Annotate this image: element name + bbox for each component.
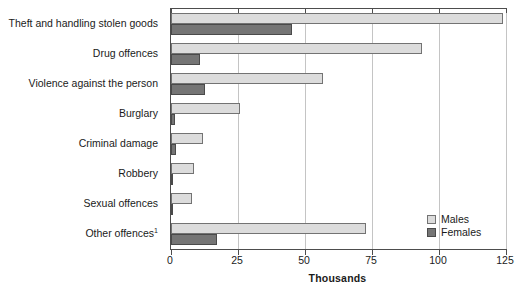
category-label: Sexual offences <box>83 198 158 209</box>
x-axis-tick-label: 25 <box>231 254 243 266</box>
x-axis-tick-top <box>506 8 507 13</box>
category-label: Burglary <box>119 108 158 119</box>
legend-label-females: Females <box>441 227 481 238</box>
bar-females <box>171 234 217 245</box>
bar-males <box>171 13 503 24</box>
bar-females <box>171 174 173 185</box>
legend-swatch-males-icon <box>427 215 436 224</box>
bar-males <box>171 133 203 144</box>
category-label: Violence against the person <box>29 78 158 89</box>
chart-legend: Males Females <box>427 213 501 239</box>
x-axis-tick-labels: 0255075100125 <box>170 254 505 268</box>
bar-females <box>171 114 175 125</box>
category-label: Drug offences <box>93 48 158 59</box>
x-axis-tick-label: 75 <box>365 254 377 266</box>
category-label: Criminal damage <box>79 138 158 149</box>
category-label: Theft and handling stolen goods <box>9 18 158 29</box>
category-label: Other offences1 <box>85 228 158 239</box>
gridline <box>506 9 507 249</box>
category-label-column: Theft and handling stolen goodsDrug offe… <box>0 8 164 248</box>
bar-males <box>171 73 323 84</box>
bar-males <box>171 193 192 204</box>
x-axis-tick-label: 0 <box>167 254 173 266</box>
bar-females <box>171 204 173 215</box>
legend-item-females: Females <box>427 226 501 238</box>
x-axis-title: Thousands <box>170 272 505 284</box>
legend-item-males: Males <box>427 213 501 225</box>
bar-females <box>171 144 176 155</box>
x-axis-tick-label: 100 <box>429 254 447 266</box>
bar-females <box>171 84 205 95</box>
bar-males <box>171 163 194 174</box>
bar-males <box>171 223 366 234</box>
x-axis-tick-label: 125 <box>496 254 514 266</box>
category-label: Robbery <box>118 168 158 179</box>
bar-chart: Theft and handling stolen goodsDrug offe… <box>0 0 528 302</box>
x-axis-tick-label: 50 <box>298 254 310 266</box>
bar-females <box>171 54 200 65</box>
bar-males <box>171 43 422 54</box>
bar-females <box>171 24 292 35</box>
legend-label-males: Males <box>441 214 469 225</box>
legend-swatch-females-icon <box>427 228 436 237</box>
bar-males <box>171 103 240 114</box>
footnote-marker: 1 <box>154 227 158 234</box>
